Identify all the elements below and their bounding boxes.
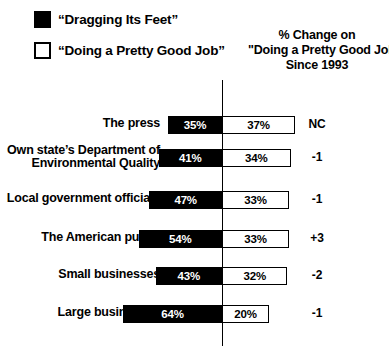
bar-dragging-its-feet: 35% xyxy=(168,116,222,134)
chart-row: Small businesses43%32%-2 xyxy=(0,263,389,289)
bar-dragging-its-feet: 64% xyxy=(123,305,222,323)
row-change-value: -2 xyxy=(248,268,386,282)
chart-row: Large businesses64%20%-1 xyxy=(0,301,389,327)
chart-row: The press35%37%NC xyxy=(0,112,389,138)
chart-rows: The press35%37%NCOwn state’s Department … xyxy=(0,0,389,356)
row-change-value: NC xyxy=(248,117,386,131)
bar-dragging-its-feet: 47% xyxy=(149,191,222,209)
row-change-value: -1 xyxy=(248,306,386,320)
bar-dragging-its-feet: 43% xyxy=(156,267,222,285)
chart-row: Local government officials47%33%-1 xyxy=(0,187,389,213)
bar-dragging-its-feet: 41% xyxy=(159,149,222,167)
chart-row: The American public54%33%+3 xyxy=(0,226,389,252)
row-change-value: -1 xyxy=(248,150,386,164)
bar-dragging-its-feet: 54% xyxy=(139,230,222,248)
row-change-value: -1 xyxy=(248,192,386,206)
row-change-value: +3 xyxy=(248,231,386,245)
chart-row: Own state’s Department ofEnvironmental Q… xyxy=(0,145,389,171)
